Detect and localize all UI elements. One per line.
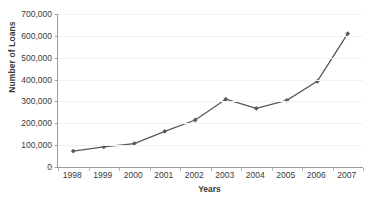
y-axis-tick-label: 0 (6, 162, 52, 172)
x-axis-tick-label: 2000 (124, 170, 143, 180)
y-axis-tick-mark (55, 36, 58, 37)
x-axis-tick-label: 2002 (185, 170, 204, 180)
x-axis-tick-mark (363, 168, 364, 171)
gridline (58, 80, 363, 81)
gridline (58, 145, 363, 146)
gridline (58, 36, 363, 37)
x-axis-tick-label: 2001 (154, 170, 173, 180)
x-axis-tick-label: 2004 (246, 170, 265, 180)
y-axis-tick-mark (55, 101, 58, 102)
x-axis-tick-label: 2006 (307, 170, 326, 180)
x-axis-title: Years (57, 184, 362, 194)
y-axis-tick-label: 200,000 (6, 118, 52, 128)
gridline (58, 14, 363, 15)
y-axis-tick-label: 600,000 (6, 31, 52, 41)
y-axis-tick-mark (55, 80, 58, 81)
y-axis-tick-label: 400,000 (6, 75, 52, 85)
y-axis-tick-mark (55, 145, 58, 146)
line-chart: Number of Loans 0100,000200,000300,00040… (0, 0, 368, 197)
plot-area (57, 14, 363, 168)
y-axis-tick-label: 100,000 (6, 140, 52, 150)
x-axis-tick-labels: 1998199920002001200220032004200520062007 (57, 170, 362, 184)
gridline (58, 123, 363, 124)
series-line (58, 14, 363, 167)
x-axis-tick-label: 2005 (276, 170, 295, 180)
gridline (58, 101, 363, 102)
x-axis-tick-label: 2003 (215, 170, 234, 180)
data-point-marker (71, 149, 76, 154)
data-point-marker (162, 129, 167, 134)
series-polyline (73, 34, 348, 151)
y-axis-tick-mark (55, 123, 58, 124)
y-axis-tick-label: 300,000 (6, 96, 52, 106)
y-axis-tick-mark (55, 14, 58, 15)
y-axis-tick-label: 700,000 (6, 9, 52, 19)
data-point-marker (254, 106, 259, 111)
y-axis-tick-mark (55, 58, 58, 59)
y-axis-tick-labels: 0100,000200,000300,000400,000500,000600,… (6, 8, 52, 173)
x-axis-tick-label: 2007 (337, 170, 356, 180)
x-axis-tick-label: 1998 (63, 170, 82, 180)
y-axis-tick-label: 500,000 (6, 53, 52, 63)
x-axis-tick-label: 1999 (93, 170, 112, 180)
gridline (58, 58, 363, 59)
